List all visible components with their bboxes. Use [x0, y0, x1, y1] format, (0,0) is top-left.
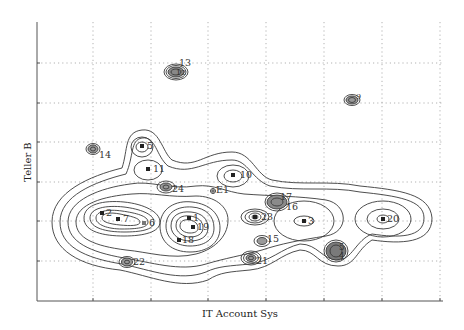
label-21: 21	[256, 255, 268, 266]
label-4: 4	[339, 251, 344, 261]
label-20: 20	[387, 213, 399, 224]
label-23: 23	[261, 211, 273, 222]
label-16: 16	[286, 201, 298, 212]
label-5: 5	[147, 140, 153, 151]
label-22: 22	[133, 256, 145, 267]
y-axis-title: Teller B	[22, 142, 33, 181]
label-3: 3	[308, 215, 314, 226]
label-e1: E1	[216, 184, 229, 195]
point-labels: 13 12 9 14 5 11 24 E1 10 17 16 2 7 6 1 1…	[99, 57, 399, 267]
label-24: 24	[172, 183, 184, 194]
label-12: 12	[176, 68, 186, 77]
label-10: 10	[240, 169, 252, 180]
label-18: 18	[182, 234, 194, 245]
label-7: 7	[123, 213, 129, 224]
e1-marker	[211, 189, 216, 194]
label-19: 19	[197, 221, 209, 232]
label-2: 2	[106, 207, 112, 218]
contour-chart: 13 12 9 14 5 11 24 E1 10 17 16 2 7 6 1 1…	[0, 0, 464, 330]
label-15: 15	[267, 233, 279, 244]
label-14: 14	[99, 149, 111, 160]
label-13: 13	[179, 57, 191, 68]
x-axis-title: IT Account Sys	[202, 308, 278, 319]
label-11: 11	[153, 163, 165, 174]
label-9: 9	[356, 92, 361, 101]
label-6: 6	[149, 217, 155, 228]
